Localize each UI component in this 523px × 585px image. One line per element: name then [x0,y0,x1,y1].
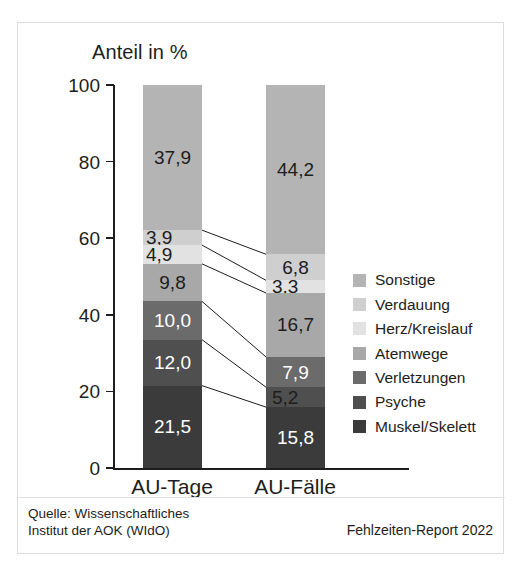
bar-segment-verdauung: 3,9 [143,230,202,245]
segment-value-label: 12,0 [154,353,191,372]
legend-item-psyche[interactable]: Psyche [353,390,503,414]
bar-segment-psyche: 5,2 [266,387,325,407]
bar-segment-verletzungen: 7,9 [266,357,325,387]
y-tick [106,467,114,469]
plot-area: Anteil in % 020406080100 37,93,94,99,810… [18,23,505,555]
report-note: Fehlzeiten-Report 2022 [347,522,493,539]
x-axis-line [113,468,409,470]
legend-item-herz-kreislauf[interactable]: Herz/Kreislauf [353,317,503,341]
y-tick [106,161,114,163]
y-tick-label: 20 [36,391,100,392]
bar-segment-muskel-skelett: 21,5 [143,386,202,468]
legend-swatch-icon [353,347,366,360]
bar-segment-atemwege: 9,8 [143,264,202,302]
connector-line [202,386,266,407]
legend-item-sonstige[interactable]: Sonstige [353,268,503,292]
source-note: Quelle: Wissenschaftliches Institut der … [28,505,189,539]
legend-label: Psyche [375,394,426,410]
y-tick [106,314,114,316]
bar-segment-muskel-skelett: 15,8 [266,407,325,468]
segment-value-label: 5,2 [272,388,298,407]
legend-label: Muskel/Skelett [375,419,476,435]
legend: SonstigeVerdauungHerz/KreislaufAtemwegeV… [353,268,503,439]
y-tick-label: 80 [36,162,100,163]
legend-label: Verletzungen [375,370,466,386]
bar-segment-herz-kreislauf: 4,9 [143,245,202,264]
legend-swatch-icon [353,371,366,384]
y-tick-label: 100 [36,85,100,86]
bar-segment-atemwege: 16,7 [266,293,325,357]
segment-value-label: 44,2 [277,160,314,179]
bar-au-tage: 37,93,94,99,810,012,021,5 [143,85,202,468]
legend-label: Sonstige [375,272,435,288]
legend-swatch-icon [353,420,366,433]
y-axis-line [113,85,115,469]
segment-value-label: 4,9 [146,245,172,264]
y-tick [106,84,114,86]
y-tick [106,237,114,239]
chart-figure: Anteil in % 020406080100 37,93,94,99,810… [17,22,504,554]
legend-swatch-icon [353,322,366,335]
x-label-au-faelle: AU-Fälle [225,475,365,499]
bar-au-faelle: 44,26,83,316,77,95,215,8 [266,85,325,468]
legend-label: Herz/Kreislauf [375,321,472,337]
legend-item-atemwege[interactable]: Atemwege [353,341,503,365]
legend-swatch-icon [353,298,366,311]
legend-item-verletzungen[interactable]: Verletzungen [353,366,503,390]
legend-label: Verdauung [375,297,450,313]
bar-segment-herz-kreislauf: 3,3 [266,280,325,293]
segment-value-label: 16,7 [277,315,314,334]
segment-value-label: 6,8 [282,258,308,277]
legend-swatch-icon [353,396,366,409]
bar-segment-psyche: 12,0 [143,340,202,386]
legend-item-verdauung[interactable]: Verdauung [353,292,503,316]
y-tick-label: 60 [36,238,100,239]
segment-value-label: 21,5 [154,417,191,436]
y-tick [106,391,114,393]
y-tick-label: 0 [36,468,100,469]
legend-label: Atemwege [375,346,448,362]
connector-line [202,340,266,387]
segment-value-label: 10,0 [154,311,191,330]
connector-line [202,230,266,254]
legend-item-muskel-skelett[interactable]: Muskel/Skelett [353,414,503,438]
connector-line [202,264,266,293]
bar-segment-sonstige: 44,2 [266,85,325,254]
connector-line [202,245,266,280]
x-label-au-tage: AU-Tage [102,475,242,499]
segment-value-label: 15,8 [277,428,314,447]
axis-title: Anteil in % [92,41,188,64]
connector-line [202,301,266,357]
segment-value-label: 7,9 [282,363,308,382]
segment-value-label: 37,9 [154,148,191,167]
segment-value-label: 9,8 [159,273,185,292]
legend-swatch-icon [353,274,366,287]
footer-divider [18,497,505,498]
bar-segment-sonstige: 37,9 [143,85,202,230]
bar-segment-verletzungen: 10,0 [143,301,202,339]
y-tick-label: 40 [36,315,100,316]
